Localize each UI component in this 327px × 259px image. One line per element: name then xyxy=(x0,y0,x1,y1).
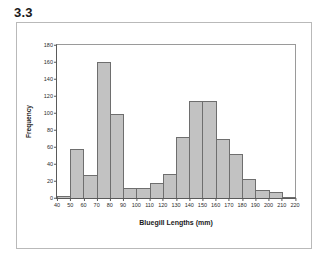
y-axis-tick-label: 180 xyxy=(44,42,57,48)
x-axis-tick-label: 170 xyxy=(224,198,233,209)
histogram-bar xyxy=(229,154,243,198)
histogram-bar xyxy=(136,188,150,198)
x-axis-tick-label: 60 xyxy=(80,198,86,209)
y-axis-tick-label: 120 xyxy=(44,93,57,99)
y-axis-tick-label: 80 xyxy=(47,127,57,133)
figure-frame: Frequency 020406080100120140160180 40506… xyxy=(16,22,312,249)
histogram-bar xyxy=(189,101,203,198)
y-axis-tick-label: 20 xyxy=(47,178,57,184)
histogram-bar xyxy=(216,139,230,199)
histogram-bar xyxy=(123,188,137,198)
y-axis-tick-label: 160 xyxy=(44,59,57,65)
x-axis-tick-label: 70 xyxy=(94,198,100,209)
y-axis-label: Frequency xyxy=(23,44,33,199)
x-axis-label: Bluegill Lengths (mm) xyxy=(56,219,296,226)
histogram-bar xyxy=(176,137,190,198)
x-axis-tick-label: 50 xyxy=(67,198,73,209)
y-axis-label-text: Frequency xyxy=(25,105,32,138)
x-axis-tick-label: 100 xyxy=(132,198,141,209)
x-axis-tick-label: 140 xyxy=(185,198,194,209)
x-axis-tick-label: 130 xyxy=(171,198,180,209)
x-axis-tick-label: 110 xyxy=(145,198,154,209)
plot-area: 020406080100120140160180 405060708090100… xyxy=(56,44,296,199)
histogram-bar xyxy=(83,175,97,198)
x-axis-tick-label: 40 xyxy=(54,198,60,209)
x-axis-tick-label: 220 xyxy=(290,198,299,209)
histogram-bar xyxy=(110,114,124,198)
x-axis-tick-label: 90 xyxy=(120,198,126,209)
y-axis-tick-label: 60 xyxy=(47,144,57,150)
x-axis-tick-label: 210 xyxy=(277,198,286,209)
histogram-bar xyxy=(255,190,269,198)
histogram-bar xyxy=(150,183,164,198)
y-axis-tick-label: 40 xyxy=(47,161,57,167)
x-axis-tick-label: 200 xyxy=(264,198,273,209)
x-axis-tick-label: 150 xyxy=(198,198,207,209)
histogram-bar xyxy=(163,174,177,198)
histogram-bars xyxy=(57,45,295,198)
x-axis-tick-label: 160 xyxy=(211,198,220,209)
histogram-bar xyxy=(70,149,84,198)
x-axis-tick-label: 180 xyxy=(238,198,247,209)
x-axis-tick-label: 80 xyxy=(107,198,113,209)
figure-number: 3.3 xyxy=(14,5,33,20)
y-axis-tick-label: 100 xyxy=(44,110,57,116)
y-axis-tick-label: 140 xyxy=(44,76,57,82)
x-axis-tick-label: 120 xyxy=(158,198,167,209)
histogram-bar xyxy=(97,62,111,198)
x-axis-tick-label: 190 xyxy=(251,198,260,209)
histogram-bar xyxy=(202,101,216,198)
histogram-bar xyxy=(242,179,256,198)
